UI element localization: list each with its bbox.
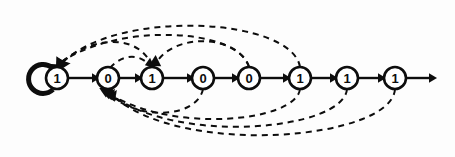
state-node-8[interactable]: 1 [384, 67, 406, 89]
forward-edge-n6-n7 [311, 73, 338, 83]
state-node-3[interactable]: 1 [141, 67, 163, 89]
exit-edge [406, 73, 437, 83]
state-node-7[interactable]: 1 [336, 67, 358, 89]
forward-edge-n3-n4 [163, 73, 195, 83]
forward-edge-n1-n2 [68, 73, 100, 83]
state-node-1[interactable]: 1 [46, 67, 68, 89]
back-edge-top-group [53, 26, 300, 72]
state-node-4[interactable]: 0 [192, 67, 214, 89]
back-edge-n8-n2 [106, 88, 395, 135]
back-edge-n7-n2 [104, 87, 347, 127]
state-node-6[interactable]: 1 [289, 67, 311, 89]
back-edge-bottom-group [99, 84, 395, 135]
forward-edge-n4-n5 [214, 73, 240, 83]
back-edge-n3-n1 [53, 42, 152, 71]
forward-edge-n7-n8 [358, 73, 386, 83]
back-edge-n6-n2 [101, 85, 300, 119]
state-node-5[interactable]: 0 [238, 67, 260, 89]
state-node-2[interactable]: 0 [97, 67, 119, 89]
state-diagram-container: 1 0 1 0 0 1 [0, 0, 455, 157]
forward-edge-n5-n6 [260, 73, 291, 83]
forward-edge-n2-n3 [119, 73, 143, 83]
back-edge-n6-n1 [58, 26, 300, 71]
state-diagram-canvas: 1 0 1 0 0 1 [0, 0, 455, 157]
